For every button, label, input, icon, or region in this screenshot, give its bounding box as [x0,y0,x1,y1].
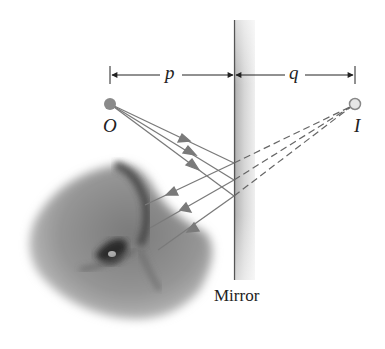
image-point [350,99,361,110]
distance-markers [110,66,355,84]
distance-q-label: q [289,62,299,84]
mirror [234,20,255,280]
object-point [104,98,116,110]
eye-illustration [30,164,213,319]
diagram-canvas [0,0,385,349]
flat-mirror-diagram: p q O I Mirror [0,0,385,349]
object-label: O [103,115,117,137]
image-label: I [354,115,360,137]
distance-p-label: p [165,62,175,84]
mirror-label: Mirror [214,286,259,306]
